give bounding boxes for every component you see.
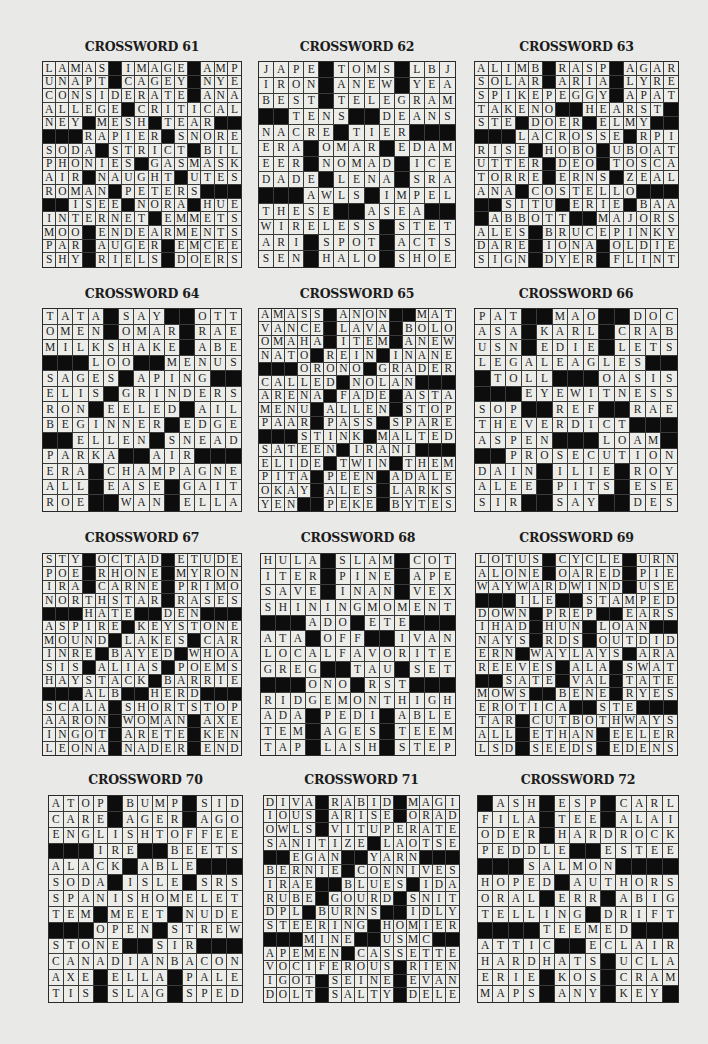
- black-square: [597, 240, 611, 254]
- letter-cell: U: [381, 933, 394, 947]
- letter-cell: E: [83, 648, 96, 661]
- letter-cell: A: [43, 715, 56, 728]
- letter-cell: U: [201, 554, 214, 567]
- letter-cell: D: [407, 988, 420, 1002]
- letter-cell: A: [64, 812, 79, 828]
- letter-cell: I: [350, 444, 363, 457]
- letter-cell: O: [215, 648, 228, 661]
- letter-cell: I: [96, 158, 109, 172]
- black-square: [56, 199, 69, 213]
- black-square: [650, 621, 663, 634]
- letter-cell: O: [646, 449, 662, 465]
- letter-cell: E: [586, 939, 601, 955]
- letter-cell: P: [43, 158, 56, 172]
- letter-cell: R: [96, 212, 109, 226]
- black-square: [586, 844, 601, 860]
- letter-cell: A: [365, 554, 380, 569]
- letter-cell: O: [586, 859, 601, 875]
- letter-cell: B: [259, 94, 274, 110]
- letter-cell: P: [651, 130, 665, 144]
- letter-cell: E: [303, 878, 316, 892]
- letter-cell: P: [175, 581, 188, 594]
- letter-cell: E: [83, 212, 96, 226]
- letter-cell: E: [276, 724, 291, 739]
- letter-cell: L: [637, 728, 650, 741]
- letter-cell: R: [395, 125, 410, 141]
- letter-cell: E: [446, 823, 459, 837]
- letter-cell: O: [188, 661, 201, 674]
- letter-cell: R: [215, 253, 228, 267]
- letter-cell: T: [380, 693, 395, 708]
- letter-cell: S: [491, 433, 507, 449]
- letter-cell: N: [83, 634, 96, 647]
- black-square: [394, 892, 407, 906]
- letter-cell: N: [365, 569, 380, 584]
- letter-cell: A: [316, 851, 329, 865]
- letter-cell: D: [475, 464, 491, 480]
- letter-cell: N: [96, 185, 109, 199]
- letter-cell: G: [583, 89, 597, 103]
- black-square: [329, 878, 342, 892]
- letter-cell: O: [570, 970, 585, 986]
- letter-cell: C: [556, 554, 569, 567]
- letter-cell: C: [201, 240, 214, 254]
- letter-cell: R: [502, 171, 516, 185]
- black-square: [502, 130, 516, 144]
- letter-cell: A: [555, 986, 570, 1002]
- letter-cell: D: [616, 923, 631, 939]
- black-square: [291, 678, 306, 693]
- letter-cell: I: [584, 387, 600, 403]
- letter-cell: T: [403, 457, 416, 470]
- letter-cell: O: [43, 325, 58, 341]
- letter-cell: O: [407, 837, 420, 851]
- black-square: [64, 923, 79, 939]
- black-square: [304, 235, 319, 251]
- black-square: [537, 402, 553, 418]
- letter-cell: L: [624, 253, 638, 267]
- letter-cell: E: [212, 986, 227, 1002]
- letter-cell: A: [390, 376, 403, 389]
- black-square: [568, 371, 584, 387]
- letter-cell: N: [227, 954, 242, 970]
- letter-cell: O: [289, 78, 304, 94]
- letter-cell: S: [49, 939, 64, 955]
- letter-cell: T: [664, 661, 677, 674]
- letter-cell: C: [122, 675, 135, 688]
- letter-cell: E: [291, 662, 306, 677]
- letter-cell: C: [425, 157, 440, 173]
- letter-cell: G: [425, 693, 440, 708]
- letter-cell: E: [329, 961, 342, 975]
- letter-cell: T: [122, 594, 135, 607]
- letter-cell: P: [168, 796, 183, 812]
- letter-cell: N: [516, 567, 529, 580]
- letter-cell: I: [43, 728, 56, 741]
- letter-cell: N: [664, 554, 677, 567]
- letter-cell: A: [83, 185, 96, 199]
- letter-cell: A: [122, 648, 135, 661]
- black-square: [109, 701, 122, 714]
- black-square: [475, 449, 491, 465]
- letter-cell: A: [556, 76, 570, 90]
- letter-cell: D: [410, 141, 425, 157]
- letter-cell: M: [442, 457, 455, 470]
- letter-cell: S: [43, 253, 56, 267]
- letter-cell: I: [395, 631, 410, 646]
- letter-cell: M: [407, 933, 420, 947]
- black-square: [493, 859, 508, 875]
- letter-cell: S: [583, 742, 596, 755]
- letter-cell: S: [56, 621, 69, 634]
- letter-cell: P: [108, 923, 123, 939]
- black-square: [601, 812, 616, 828]
- letter-cell: I: [150, 387, 165, 403]
- letter-cell: R: [616, 907, 631, 923]
- letter-cell: T: [489, 158, 503, 172]
- letter-cell: B: [410, 709, 425, 724]
- letter-cell: K: [502, 103, 516, 117]
- letter-cell: E: [440, 251, 455, 267]
- black-square: [540, 812, 555, 828]
- black-square: [368, 920, 381, 934]
- black-square: [529, 144, 543, 158]
- letter-cell: T: [162, 117, 175, 131]
- letter-cell: E: [274, 251, 289, 267]
- letter-cell: T: [349, 125, 364, 141]
